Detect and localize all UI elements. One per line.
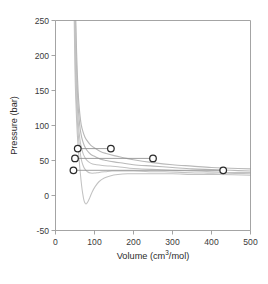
y-tick-label: 50 xyxy=(39,156,49,166)
chart-canvas: -500501001502002500100200300400500Volume… xyxy=(0,0,268,284)
y-tick-label: -50 xyxy=(37,226,50,236)
x-tick-label: 0 xyxy=(53,237,58,247)
y-tick-label: 250 xyxy=(35,16,50,26)
y-tick-label: 0 xyxy=(44,191,49,201)
x-tick-label: 200 xyxy=(126,237,141,247)
y-axis-title: Pressure (bar) xyxy=(9,96,19,155)
x-tick-label: 500 xyxy=(243,237,258,247)
isotherm-curve xyxy=(74,21,250,204)
y-tick-label: 150 xyxy=(35,86,50,96)
isotherm-curve xyxy=(76,21,251,169)
isotherm-curves xyxy=(74,21,250,204)
isotherm-curve xyxy=(75,21,251,174)
y-tick-label: 200 xyxy=(35,51,50,61)
marker-liquid-top xyxy=(74,145,81,152)
x-tick-label: 100 xyxy=(87,237,102,247)
marker-liquid-bottom xyxy=(70,167,77,174)
x-tick-label: 300 xyxy=(165,237,180,247)
x-tick-label: 400 xyxy=(204,237,219,247)
marker-vapor-top xyxy=(108,145,115,152)
marker-vapor-middle xyxy=(150,155,157,162)
marker-liquid-middle xyxy=(72,155,79,162)
x-axis-title: Volume (cm3/mol) xyxy=(117,249,190,260)
chart-figure: -500501001502002500100200300400500Volume… xyxy=(0,0,268,284)
y-tick-label: 100 xyxy=(35,121,50,131)
marker-vapor-bottom xyxy=(220,167,227,174)
isotherm-curve xyxy=(75,21,251,173)
